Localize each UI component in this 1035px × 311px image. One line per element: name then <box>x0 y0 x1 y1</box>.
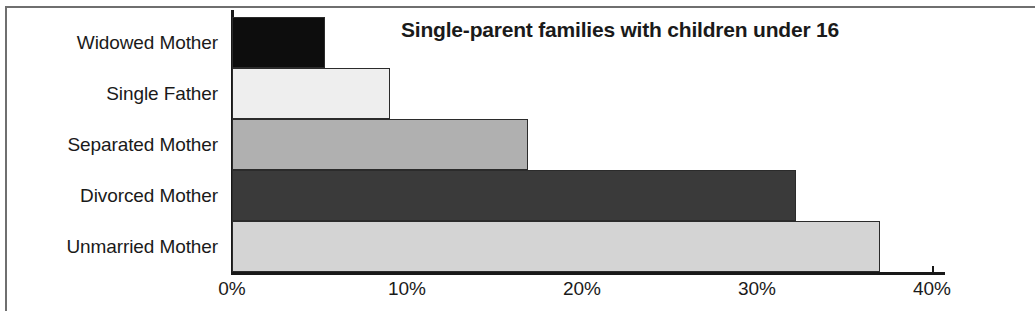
chart-figure: Single-parent families with children und… <box>0 0 1035 311</box>
category-label: Separated Mother <box>68 119 219 170</box>
page-frame-top-rule <box>5 6 1035 8</box>
page-frame-left-rule <box>5 6 7 311</box>
x-axis-tick <box>932 266 934 273</box>
bar <box>232 17 325 68</box>
category-label: Single Father <box>106 68 218 119</box>
x-axis-tick-label: 40% <box>913 278 951 300</box>
x-axis-tick-label: 20% <box>563 278 601 300</box>
x-axis-line <box>231 272 945 275</box>
category-label: Unmarried Mother <box>66 221 218 272</box>
category-label: Widowed Mother <box>77 17 218 68</box>
bar <box>232 170 796 221</box>
x-axis-tick-label: 0% <box>218 278 245 300</box>
plot-area <box>232 17 1035 272</box>
bar <box>232 221 880 272</box>
bar <box>232 119 528 170</box>
category-axis-labels: Widowed MotherSingle FatherSeparated Mot… <box>14 17 226 272</box>
x-axis-tick-label: 10% <box>388 278 426 300</box>
x-axis-tick-label: 30% <box>738 278 776 300</box>
category-label: Divorced Mother <box>80 170 218 221</box>
bar <box>232 68 390 119</box>
